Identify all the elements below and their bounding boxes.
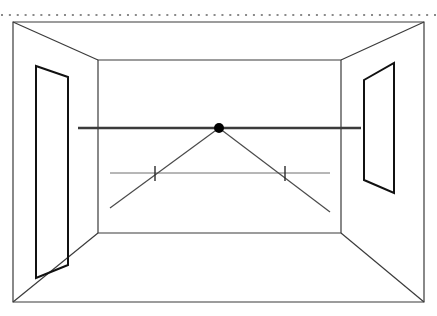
dotted-guide-dot: [261, 14, 263, 16]
dotted-guide-dot: [56, 14, 58, 16]
dotted-guide-dot: [371, 14, 373, 16]
dotted-guide-dot: [221, 14, 223, 16]
dotted-guide-dot: [64, 14, 66, 16]
canvas-background: [0, 0, 437, 316]
dotted-guide-dot: [379, 14, 381, 16]
dotted-guide-dot: [229, 14, 231, 16]
dotted-guide-dot: [143, 14, 145, 16]
dotted-guide-dot: [72, 14, 74, 16]
dotted-guide-dot: [111, 14, 113, 16]
dotted-guide-dot: [245, 14, 247, 16]
dotted-guide-dot: [214, 14, 216, 16]
dotted-guide-dot: [158, 14, 160, 16]
dotted-guide-dot: [403, 14, 405, 16]
dotted-guide-dot: [284, 14, 286, 16]
dotted-guide-dot: [332, 14, 334, 16]
dotted-guide-dot: [95, 14, 97, 16]
dotted-guide-dot: [190, 14, 192, 16]
dotted-guide-dot: [135, 14, 137, 16]
dotted-guide-dot: [363, 14, 365, 16]
dotted-guide-dot: [324, 14, 326, 16]
dotted-guide-dot: [237, 14, 239, 16]
dotted-guide-dot: [198, 14, 200, 16]
dotted-guide-dot: [182, 14, 184, 16]
dotted-guide-dot: [9, 14, 11, 16]
dotted-guide-dot: [119, 14, 121, 16]
dotted-guide-dot: [292, 14, 294, 16]
dotted-guide-dot: [25, 14, 27, 16]
dotted-guide-dot: [410, 14, 412, 16]
dotted-guide-dot: [340, 14, 342, 16]
dotted-guide-dot: [418, 14, 420, 16]
perspective-diagram-canvas: One-Point Perspective Room: [0, 0, 437, 316]
dotted-guide-dot: [253, 14, 255, 16]
dotted-guide-dot: [40, 14, 42, 16]
dotted-guide-dot: [316, 14, 318, 16]
perspective-room-drawing: [0, 0, 437, 316]
dotted-guide-dot: [277, 14, 279, 16]
dotted-guide-dot: [17, 14, 19, 16]
dotted-guide-dot: [387, 14, 389, 16]
dotted-guide-dot: [395, 14, 397, 16]
dotted-guide-dot: [174, 14, 176, 16]
dotted-guide-dot: [269, 14, 271, 16]
dotted-guide-dot: [48, 14, 50, 16]
dotted-guide-dot: [434, 14, 436, 16]
dotted-guide-dot: [1, 14, 3, 16]
dotted-guide-dot: [151, 14, 153, 16]
dotted-guide-dot: [103, 14, 105, 16]
vanishing-point: [214, 123, 224, 133]
dotted-guide-dot: [166, 14, 168, 16]
dotted-guide-dot: [127, 14, 129, 16]
dotted-guide-dot: [308, 14, 310, 16]
dotted-guide-dot: [32, 14, 34, 16]
dotted-guide-dot: [300, 14, 302, 16]
dotted-guide-dot: [88, 14, 90, 16]
dotted-guide-dot: [426, 14, 428, 16]
dotted-guide-dot: [347, 14, 349, 16]
dotted-guide-dot: [355, 14, 357, 16]
dotted-guide-dot: [80, 14, 82, 16]
dotted-guide-dot: [206, 14, 208, 16]
